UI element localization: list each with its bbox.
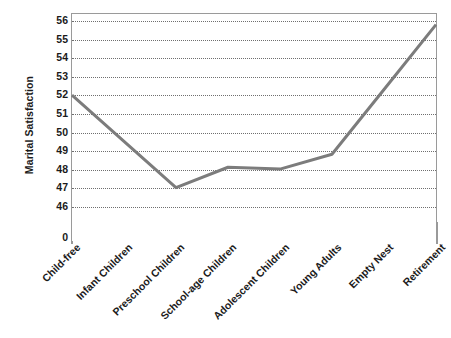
x-tick-label-text: Young Adults — [287, 241, 343, 297]
y-tick-label-55: 55 — [44, 33, 68, 44]
y-tick-label-47: 47 — [44, 182, 68, 193]
y-tick-label-51: 51 — [44, 108, 68, 119]
y-tick-label-54: 54 — [44, 52, 68, 63]
y-tick-label-53: 53 — [44, 71, 68, 82]
y-tick-label-50: 50 — [44, 126, 68, 137]
y-tick-label-48: 48 — [44, 164, 68, 175]
y-tick-label-56: 56 — [44, 15, 68, 26]
y-tick-label-49: 49 — [44, 145, 68, 156]
y-tick-label-52: 52 — [44, 89, 68, 100]
x-tick-label-text: Retirement — [400, 241, 447, 288]
x-tick-label-text: Child-free — [39, 241, 82, 284]
marital-satisfaction-line — [72, 25, 436, 188]
y-tick-label-46: 46 — [44, 201, 68, 212]
line-chart-figure: Marital Satisfaction 5655545352515049484… — [0, 0, 451, 338]
x-axis-tick-labels: Child-freeInfant ChildrenPreschool Child… — [0, 241, 451, 338]
y-axis-title-label: Marital Satisfaction — [23, 76, 35, 174]
x-tick-label-text: Empty Nest — [346, 241, 395, 290]
x-tick-label-retirement: Retirement — [439, 202, 451, 249]
